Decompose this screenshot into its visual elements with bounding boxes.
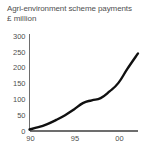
y-axis-tick-label: 50 — [17, 111, 25, 120]
y-axis-tick-label: 250 — [13, 48, 26, 57]
x-axis-tick-label: 90 — [26, 134, 34, 143]
y-axis-tick-label: 0 — [21, 127, 25, 136]
y-axis-tick-label: 150 — [13, 79, 26, 88]
chart-plot-area: 300250200150100500 909500 — [0, 0, 143, 149]
y-axis-tick-labels: 300250200150100500 — [13, 32, 26, 136]
chart-figure: Agri-environment scheme payments £ milli… — [0, 0, 143, 149]
y-axis-tick-label: 200 — [13, 63, 26, 72]
data-series-line — [30, 53, 139, 129]
y-axis-tick-label: 300 — [13, 32, 26, 41]
y-axis-tick-label: 100 — [13, 95, 26, 104]
x-axis-tick-labels: 909500 — [26, 134, 123, 143]
x-axis-tick-label: 95 — [71, 134, 79, 143]
x-axis-tick-label: 00 — [115, 134, 123, 143]
